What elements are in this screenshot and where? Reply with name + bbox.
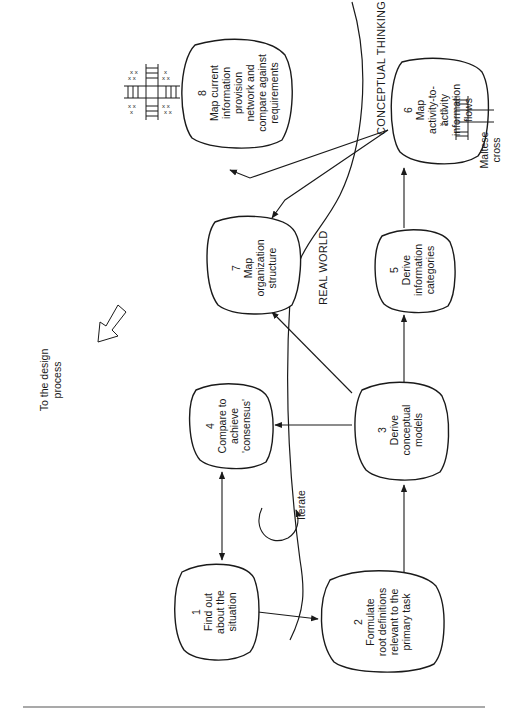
svg-text:x: x [164,69,167,75]
maltese-label-line: cross [490,137,502,162]
soft-systems-methodology-diagram: CONCEPTUAL THINKING REAL WORLD Iterate 8… [0,0,507,723]
node-5-derive-information-categories: 5 Derive information categories [375,230,455,313]
node-5-line: Derive [400,255,412,286]
edge-1-to-2 [258,612,318,619]
real-world-label: REAL WORLD [317,231,329,305]
node-5-number: 5 [388,267,400,273]
node-1-line: about the [214,590,226,634]
node-8-map-current-provision: 8 Map current information provision netw… [182,39,292,148]
node-4-compare-consensus: 4 Compare to achieve 'consensus' [190,384,273,469]
node-5-line: information [412,244,424,296]
node-2-number: 2 [352,619,364,625]
node-8-line: compare against [256,54,268,132]
node-3-line: Derive [388,415,400,446]
iterate-loop-arrow [259,508,298,541]
node-6-line: Map [414,100,426,121]
svg-text:x x: x x [440,107,448,113]
design-process-line: To the design [38,349,50,412]
node-8-line: Map current [208,65,220,121]
svg-text:x x: x x [162,75,170,81]
node-2-line: primary task [400,593,412,651]
node-5-line: categories [424,246,436,294]
node-1-number: 1 [190,609,202,615]
node-4-number: 4 [204,423,216,429]
node-7-map-organization-structure: 7 Map organization structure [207,216,301,314]
node-7-number: 7 [230,265,242,271]
svg-text:x: x [130,109,133,115]
node-1-line: Find out [202,593,214,631]
svg-text:x x: x x [440,121,448,127]
node-4-line: 'consensus' [240,399,252,453]
maltese-label-line: Maltese [478,131,490,168]
node-8-line: provision [232,72,244,114]
node-3-derive-conceptual-models: 3 Derive conceptual models [355,382,449,480]
conceptual-thinking-label: CONCEPTUAL THINKING [375,1,387,135]
design-process-caption: To the design process [38,349,63,412]
node-7-line: Map [242,258,254,279]
node-2-line: Formulate [364,598,376,645]
iterate-label: Iterate [295,490,307,520]
node-3-line: models [412,413,424,447]
node-1-find-out-situation: 1 Find out about the situation [175,564,259,660]
node-2-formulate-root-definitions: 2 Formulate root definitions relevant to… [321,571,444,672]
svg-text:x x: x x [128,75,136,81]
node-7-line: organization [254,239,266,296]
node-3-number: 3 [376,427,388,433]
node-8-line: information [220,67,232,119]
node-4-line: achieve [228,408,240,444]
node-1-line: situation [226,592,238,631]
node-7-line: structure [266,247,278,288]
node-8-number: 8 [196,90,208,96]
design-process-line: process [51,362,63,399]
svg-text:x x: x x [130,69,138,75]
real-world-boundary-curve [288,2,363,640]
maltese-cross-icon-left: x xx x x xx x xx x xx x [124,64,180,120]
node-2-line: relevant to the [388,589,400,656]
svg-text:x x: x x [164,109,172,115]
design-process-hollow-arrow-icon [98,305,126,342]
maltese-cross-caption: Maltese cross [478,131,502,168]
node-8-line: requirements [268,62,280,123]
edge-3-to-7 [272,312,352,393]
node-4-line: Compare to [216,398,228,453]
node-8-line: network and [244,64,256,121]
edge-6-to-7 [272,130,388,218]
node-3-line: conceptual [400,405,412,456]
node-6-line: activity-to- [426,86,438,134]
node-6-number: 6 [402,107,414,113]
node-2-line: root definitions [376,588,388,656]
